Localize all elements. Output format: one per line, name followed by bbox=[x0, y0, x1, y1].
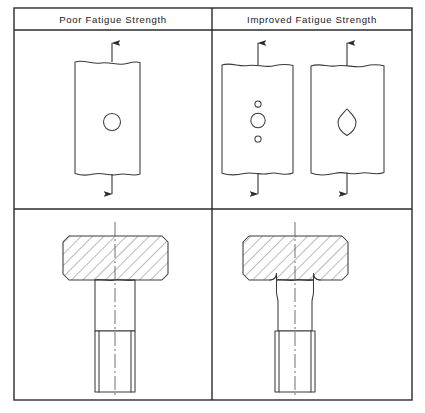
header-improved-fatigue-strength: Improved Fatigue Strength bbox=[247, 14, 377, 25]
bolt-head-section bbox=[63, 236, 168, 280]
relief-hole-upper bbox=[255, 101, 261, 107]
main-hole bbox=[251, 113, 265, 127]
header-poor-fatigue-strength: Poor Fatigue Strength bbox=[59, 14, 167, 25]
bolt-head-section bbox=[243, 236, 348, 280]
main-hole bbox=[104, 114, 121, 131]
cell-top-left bbox=[75, 43, 140, 194]
figure-canvas: Poor Fatigue Strength Improved Fatigue S… bbox=[0, 0, 425, 413]
fatigue-strength-figure: Poor Fatigue Strength Improved Fatigue S… bbox=[0, 0, 425, 413]
plate-relief-holes bbox=[222, 64, 293, 175]
plate-single-hole bbox=[75, 61, 140, 175]
relief-hole-lower bbox=[255, 136, 261, 142]
plate-streamlined-hole bbox=[311, 65, 384, 175]
